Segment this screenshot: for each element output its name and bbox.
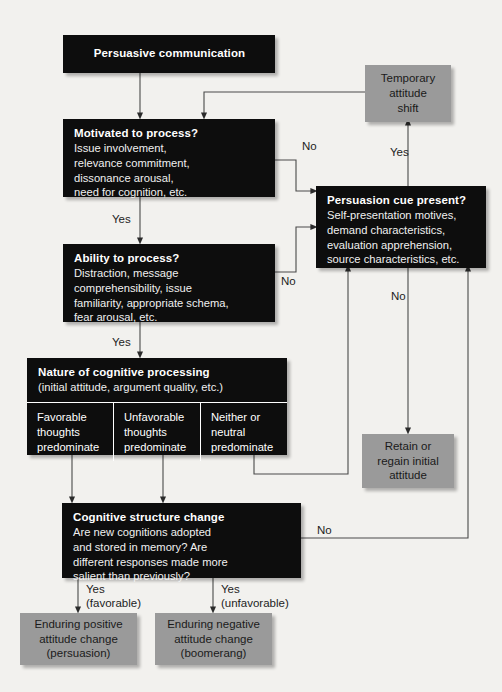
processing-outcome-columns: Favorable thoughts predominate Unfavorab… bbox=[27, 402, 287, 461]
column-favorable-thoughts[interactable]: Favorable thoughts predominate bbox=[27, 403, 113, 461]
node-cognitive-structure-change[interactable]: Cognitive structure change Are new cogni… bbox=[62, 503, 301, 578]
node-ability-to-process[interactable]: Ability to process? Distraction, message… bbox=[63, 244, 275, 322]
node-detail: Are new cognitions adopted and stored in… bbox=[73, 525, 291, 583]
edge-label-ability-no: No bbox=[281, 275, 296, 288]
node-header: Nature of cognitive processing (initial … bbox=[27, 358, 287, 402]
edge-label-structure-no: No bbox=[317, 524, 332, 537]
node-nature-of-cognitive-processing[interactable]: Nature of cognitive processing (initial … bbox=[27, 358, 287, 455]
edge-label-ability-yes: Yes bbox=[112, 336, 131, 349]
node-detail: Issue involvement, relevance commitment,… bbox=[74, 141, 265, 199]
node-label: Enduring positive attitude change (persu… bbox=[34, 617, 122, 662]
node-motivated-to-process[interactable]: Motivated to process? Issue involvement,… bbox=[63, 119, 275, 197]
node-label: Enduring negative attitude change (boome… bbox=[167, 617, 260, 662]
node-detail: Self-presentation motives, demand charac… bbox=[327, 208, 476, 266]
node-detail: Distraction, message comprehensibility, … bbox=[74, 266, 265, 324]
node-title: Nature of cognitive processing bbox=[38, 365, 277, 379]
node-label: Temporary attitude shift bbox=[381, 71, 435, 116]
node-enduring-positive-attitude-change[interactable]: Enduring positive attitude change (persu… bbox=[20, 613, 137, 665]
node-label: Retain or regain initial attitude bbox=[377, 439, 438, 484]
node-retain-regain-attitude[interactable]: Retain or regain initial attitude bbox=[362, 434, 454, 488]
flowchart-canvas: Persuasive communication Motivated to pr… bbox=[0, 0, 502, 692]
edge-label-cue-yes: Yes bbox=[390, 146, 409, 159]
node-temporary-attitude-shift[interactable]: Temporary attitude shift bbox=[365, 65, 451, 122]
node-title: Persuasion cue present? bbox=[327, 193, 476, 207]
node-title: Ability to process? bbox=[74, 251, 265, 265]
edge-label-motivated-yes: Yes bbox=[112, 213, 131, 226]
edge-label-cue-no: No bbox=[391, 290, 406, 303]
node-title: Motivated to process? bbox=[74, 126, 265, 140]
node-persuasive-communication[interactable]: Persuasive communication bbox=[63, 35, 275, 73]
node-subtitle: (initial attitude, argument quality, etc… bbox=[38, 380, 277, 395]
node-title: Cognitive structure change bbox=[73, 510, 291, 524]
node-persuasion-cue-present[interactable]: Persuasion cue present? Self-presentatio… bbox=[316, 186, 486, 268]
edge-label-yes-unfavorable: Yes (unfavorable) bbox=[221, 583, 289, 610]
edge-label-yes-favorable: Yes (favorable) bbox=[86, 583, 141, 610]
edge-label-motivated-no: No bbox=[302, 140, 317, 153]
node-enduring-negative-attitude-change[interactable]: Enduring negative attitude change (boome… bbox=[155, 613, 272, 665]
column-unfavorable-thoughts[interactable]: Unfavorable thoughts predominate bbox=[113, 403, 200, 461]
column-neutral-thoughts[interactable]: Neither or neutral predominate bbox=[200, 403, 287, 461]
node-title: Persuasive communication bbox=[94, 46, 245, 60]
